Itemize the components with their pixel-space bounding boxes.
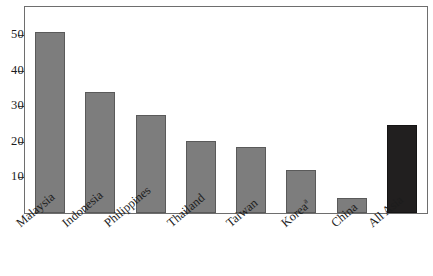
bar-chart: 1020304050 MalaysiaIndonesiaPhilippinesT… bbox=[0, 0, 433, 276]
y-axis-tick-label: 10 bbox=[2, 170, 24, 183]
y-axis-tick-label: 40 bbox=[2, 64, 24, 77]
y-axis-tick-label: 30 bbox=[2, 99, 24, 112]
x-axis-labels: MalaysiaIndonesiaPhilippinesThailandTaiw… bbox=[25, 214, 427, 276]
y-axis-tick-label: 50 bbox=[2, 28, 24, 41]
bar-malaysia bbox=[35, 32, 65, 213]
y-axis-tick-label: 20 bbox=[2, 135, 24, 148]
y-axis: 1020304050 bbox=[0, 0, 24, 276]
bars-layer bbox=[25, 7, 427, 213]
